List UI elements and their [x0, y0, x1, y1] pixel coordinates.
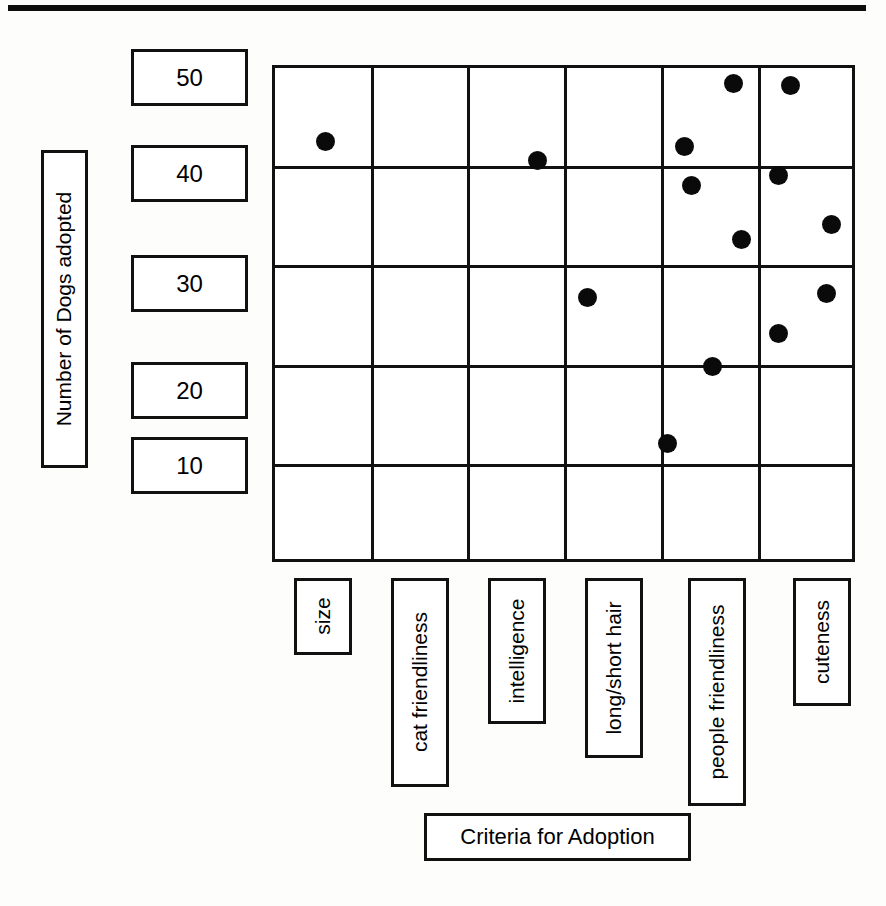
data-point [732, 230, 751, 249]
x-category-people-friendliness: people friendliness [688, 578, 746, 806]
y-tick-10-label: 10 [176, 453, 203, 478]
data-point [578, 288, 597, 307]
data-point [703, 357, 722, 376]
y-tick-40: 40 [131, 145, 248, 202]
data-point [724, 74, 743, 93]
x-category-cuteness: cuteness [793, 578, 851, 706]
y-axis-title-label: Number of Dogs adopted [53, 192, 75, 427]
gridline-horizontal [275, 265, 852, 268]
gridline-horizontal [275, 365, 852, 368]
x-category-cuteness-label: cuteness [811, 600, 833, 684]
y-tick-50-label: 50 [176, 65, 203, 90]
y-axis-title-box: Number of Dogs adopted [41, 150, 88, 468]
worksheet-page: Number of Dogs adopted 50 40 30 20 10 si… [0, 0, 886, 906]
y-tick-50: 50 [131, 49, 248, 106]
y-tick-40-label: 40 [176, 161, 203, 186]
gridline-vertical [371, 68, 374, 559]
x-category-people-friendliness-label: people friendliness [706, 604, 728, 779]
gridline-horizontal [275, 464, 852, 467]
y-tick-10: 10 [131, 437, 248, 494]
x-category-long-short-hair: long/short hair [585, 578, 643, 758]
data-point [675, 137, 694, 156]
data-point [528, 151, 547, 170]
x-category-cat-friendliness-label: cat friendliness [409, 612, 431, 752]
x-category-intelligence-label: intelligence [506, 598, 528, 703]
data-point [658, 434, 677, 453]
y-tick-30: 30 [131, 255, 248, 312]
y-tick-20: 20 [131, 362, 248, 419]
x-category-long-short-hair-label: long/short hair [603, 601, 625, 734]
gridline-horizontal [275, 166, 852, 169]
data-point [817, 284, 836, 303]
data-point [781, 76, 800, 95]
data-point [769, 324, 788, 343]
data-point [769, 166, 788, 185]
gridline-vertical [564, 68, 567, 559]
x-axis-title-box: Criteria for Adoption [424, 813, 691, 861]
y-tick-30-label: 30 [176, 271, 203, 296]
x-category-size: size [294, 578, 352, 655]
x-axis-title-label: Criteria for Adoption [460, 825, 654, 848]
data-point [316, 132, 335, 151]
gridline-vertical [758, 68, 761, 559]
data-point [682, 176, 701, 195]
x-category-cat-friendliness: cat friendliness [391, 578, 449, 787]
x-category-intelligence: intelligence [488, 578, 546, 724]
gridline-vertical [661, 68, 664, 559]
plot-area [272, 65, 855, 562]
page-top-rule [8, 5, 866, 11]
x-category-size-label: size [312, 598, 334, 635]
data-point [822, 215, 841, 234]
y-tick-20-label: 20 [176, 378, 203, 403]
gridline-vertical [467, 68, 470, 559]
